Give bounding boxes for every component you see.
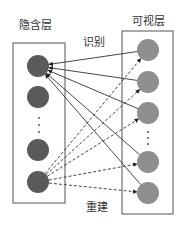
ellipsis-dot	[38, 117, 40, 119]
reconstruction-edge	[47, 119, 138, 176]
reconstruction-edge	[45, 58, 141, 173]
hidden-node	[27, 55, 49, 77]
visible-layer-label: 可视层	[132, 12, 165, 28]
visible-node	[137, 182, 159, 204]
hidden-node	[27, 171, 49, 193]
visible-nodes	[137, 39, 159, 204]
hidden-node	[27, 86, 49, 108]
hidden-node	[27, 139, 49, 161]
ellipsis-dot	[147, 143, 149, 145]
reconstruction-edge	[49, 183, 137, 192]
visible-node	[137, 102, 159, 124]
recognition-edge	[49, 52, 137, 65]
recognition-edge	[46, 73, 139, 155]
ellipsis-dot	[38, 131, 40, 133]
visible-node	[137, 71, 159, 93]
reconstruction-edge	[46, 89, 140, 174]
reconstruction-label: 重建	[86, 198, 108, 214]
recognition-edge	[45, 74, 141, 184]
visible-node	[137, 39, 159, 61]
hidden-layer-label: 隐含层	[19, 16, 52, 32]
edges	[45, 52, 141, 192]
ellipsis-dot	[147, 137, 149, 139]
recognition-edge	[49, 68, 137, 81]
visible-node	[137, 151, 159, 173]
ellipsis-dot	[38, 124, 40, 126]
recognition-label: 识别	[83, 33, 105, 49]
ellipsis-dot	[147, 131, 149, 133]
